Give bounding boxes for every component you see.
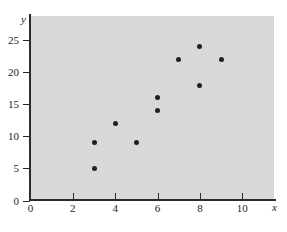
x-tick-mark (115, 193, 116, 200)
x-tick-label: 4 (100, 203, 130, 214)
y-tick-label: 20 (0, 67, 19, 78)
y-axis-line (29, 14, 31, 201)
data-point (219, 57, 224, 62)
x-tick-mark (200, 193, 201, 200)
x-axis-title: x (272, 202, 277, 213)
y-tick-mark (23, 136, 30, 137)
x-tick-label: 2 (58, 203, 88, 214)
x-tick-mark (242, 193, 243, 200)
y-tick-label: 5 (0, 163, 19, 174)
data-point (92, 166, 97, 171)
y-tick-mark (23, 72, 30, 73)
data-point (113, 121, 118, 126)
y-tick-mark (23, 104, 30, 105)
x-tick-mark (73, 193, 74, 200)
y-tick-label: 25 (0, 35, 19, 46)
data-point (92, 140, 97, 145)
y-tick-mark (23, 168, 30, 169)
x-tick-label: 0 (16, 203, 46, 214)
x-axis-line (29, 199, 276, 201)
x-tick-mark (158, 193, 159, 200)
plot-area (31, 16, 274, 200)
scatter-plot-figure: 0510152025 0246810 y x (0, 0, 287, 232)
y-tick-label: 15 (0, 99, 19, 110)
data-point (176, 57, 181, 62)
x-tick-label: 8 (185, 203, 215, 214)
data-point (197, 83, 202, 88)
y-axis-title: y (21, 14, 26, 25)
y-tick-label: 10 (0, 131, 19, 142)
x-tick-label: 6 (143, 203, 173, 214)
y-tick-mark (23, 40, 30, 41)
x-tick-label: 10 (227, 203, 257, 214)
